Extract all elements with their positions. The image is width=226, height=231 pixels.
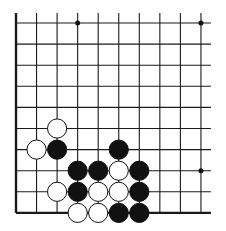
white-stone[interactable]	[109, 161, 128, 180]
white-stone[interactable]	[109, 182, 128, 201]
black-stone[interactable]	[130, 161, 149, 180]
black-stone[interactable]	[109, 140, 128, 159]
black-stone[interactable]	[68, 182, 87, 201]
white-stone[interactable]	[27, 140, 46, 159]
white-stone[interactable]	[89, 182, 108, 201]
white-stone[interactable]	[48, 119, 67, 138]
go-board[interactable]	[0, 0, 226, 231]
star-point-icon	[198, 21, 203, 26]
black-stone[interactable]	[89, 161, 108, 180]
black-stone[interactable]	[48, 140, 67, 159]
black-stone[interactable]	[130, 182, 149, 201]
black-stone[interactable]	[109, 203, 128, 222]
white-stone[interactable]	[89, 203, 108, 222]
black-stone[interactable]	[130, 203, 149, 222]
white-stone[interactable]	[68, 203, 87, 222]
star-point-icon	[75, 21, 80, 26]
black-stone[interactable]	[68, 161, 87, 180]
star-point-icon	[198, 168, 203, 173]
white-stone[interactable]	[48, 182, 67, 201]
board-grid	[16, 13, 211, 213]
